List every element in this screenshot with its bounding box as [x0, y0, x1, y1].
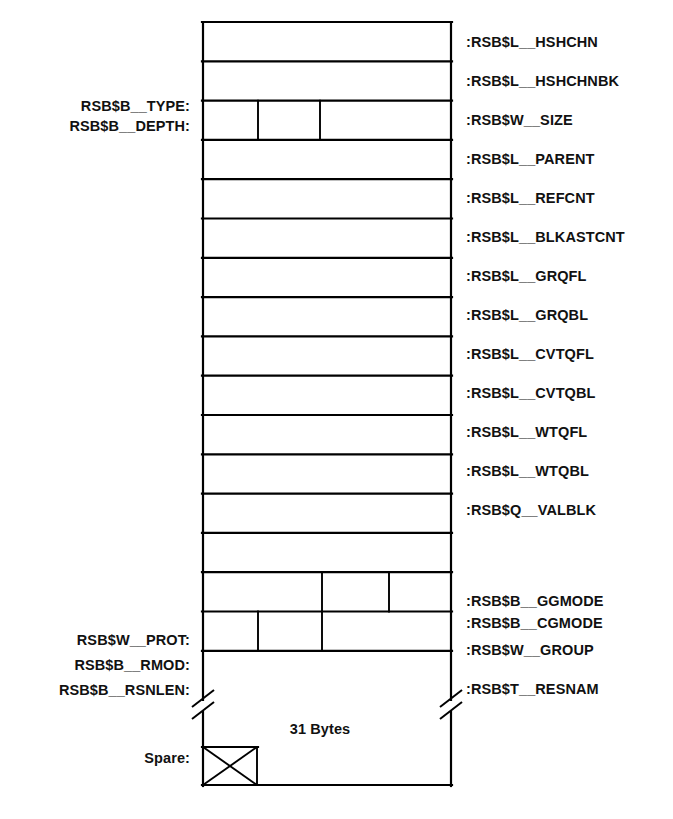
- field-label-cgmode: :RSB$B__CGMODE: [466, 615, 603, 631]
- field-label-size: :RSB$W__SIZE: [466, 112, 573, 128]
- resnam-size-annotation: 31 Bytes: [290, 721, 350, 737]
- field-label-type: RSB$B__TYPE:: [81, 98, 190, 114]
- field-label-spare: Spare:: [144, 750, 190, 766]
- field-label-wtqbl: :RSB$L__WTQBL: [466, 463, 589, 479]
- field-label-parent: :RSB$L__PARENT: [466, 151, 594, 167]
- field-label-group: :RSB$W__GROUP: [466, 642, 594, 658]
- field-label-hshchn: :RSB$L__HSHCHN: [466, 34, 598, 50]
- field-label-rmod: RSB$B__RMOD:: [74, 657, 190, 673]
- field-label-cvtqfl: :RSB$L__CVTQFL: [466, 346, 594, 362]
- field-label-ggmode: :RSB$B__GGMODE: [466, 593, 604, 609]
- field-label-wtqfl: :RSB$L__WTQFL: [466, 424, 587, 440]
- field-label-resnam: :RSB$T__RESNAM: [466, 681, 599, 697]
- field-label-grqbl: :RSB$L__GRQBL: [466, 307, 588, 323]
- rsb-structure-diagram: :RSB$L__HSHCHN :RSB$L__HSHCHNBK :RSB$W__…: [0, 0, 673, 819]
- field-label-grqfl: :RSB$L__GRQFL: [466, 268, 587, 284]
- field-label-cvtqbl: :RSB$L__CVTQBL: [466, 385, 596, 401]
- diagram-canvas: :RSB$L__HSHCHN :RSB$L__HSHCHNBK :RSB$W__…: [0, 0, 673, 819]
- field-label-refcnt: :RSB$L__REFCNT: [466, 190, 595, 206]
- field-label-rsnlen: RSB$B__RSNLEN:: [59, 682, 190, 698]
- field-label-blkastcnt: :RSB$L__BLKASTCNT: [466, 229, 625, 245]
- field-label-depth: RSB$B__DEPTH:: [69, 118, 190, 134]
- field-label-valblk: :RSB$Q__VALBLK: [466, 502, 596, 518]
- field-label-hshchnbk: :RSB$L__HSHCHNBK: [466, 73, 619, 89]
- field-label-prot: RSB$W__PROT:: [77, 632, 190, 648]
